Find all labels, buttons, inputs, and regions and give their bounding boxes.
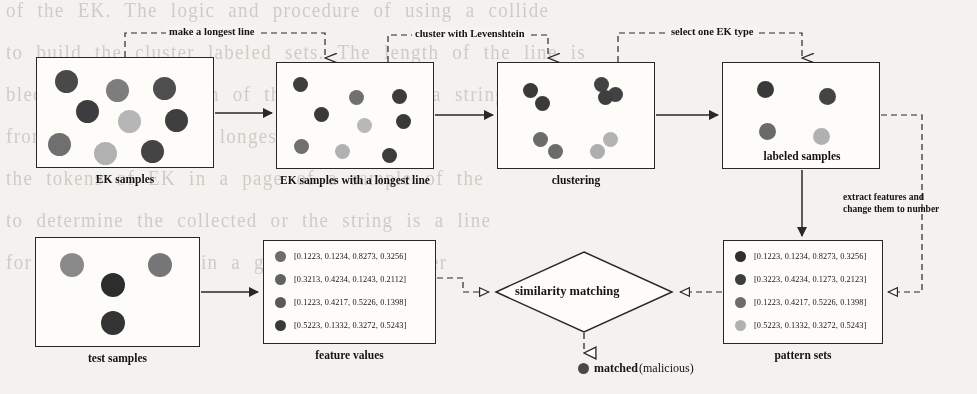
sample-dot	[357, 118, 372, 133]
feature-row-dot-icon	[275, 274, 286, 285]
feature-row-vector: [0.1223, 0.4217, 0.5226, 0.1398]	[754, 298, 866, 307]
matched-result-row: matched (malicious)	[578, 361, 694, 376]
dashed-cluster-levenshtein	[388, 35, 548, 62]
feature-row-vector: [0.1223, 0.1234, 0.8273, 0.3256]	[294, 252, 406, 261]
box-caption-clustering: clustering	[497, 174, 655, 186]
sample-dot	[813, 128, 830, 145]
sample-dot	[118, 110, 141, 133]
result-strong: matched	[594, 361, 638, 376]
sample-dot	[106, 79, 129, 102]
box-clustering	[497, 62, 655, 169]
sample-dot	[101, 273, 125, 297]
feature-row-vector: [0.3223, 0.4234, 0.1273, 0.2123]	[754, 275, 866, 284]
sample-dot	[819, 88, 836, 105]
feature-row-vector: [0.5223, 0.1332, 0.3272, 0.5243]	[754, 321, 866, 330]
box-caption-ek-samples-longest-line: EK samples with a longest line	[276, 174, 434, 186]
sample-dot	[94, 142, 117, 165]
sample-dot	[759, 123, 776, 140]
feature-row-dot-icon	[735, 274, 746, 285]
side-note-line-1: extract features and	[843, 191, 939, 203]
sample-dot	[590, 144, 605, 159]
result-normal: (malicious)	[639, 361, 694, 376]
side-note-extract-features: extract features and change them to numb…	[843, 191, 939, 215]
flow-label-select-ek-type: select one EK type	[668, 26, 757, 37]
feature-row: [0.1223, 0.1234, 0.8273, 0.3256]	[735, 251, 866, 262]
sample-dot	[60, 253, 84, 277]
sample-dot	[535, 96, 550, 111]
sample-dot	[76, 100, 99, 123]
feature-row: [0.5223, 0.1332, 0.3272, 0.5243]	[275, 320, 406, 331]
box-caption-pattern-sets: pattern sets	[723, 349, 883, 361]
feature-row-dot-icon	[275, 297, 286, 308]
feature-row-dot-icon	[735, 320, 746, 331]
feature-row-dot-icon	[735, 251, 746, 262]
sample-dot	[55, 70, 78, 93]
box-caption-feature-values: feature values	[263, 349, 436, 361]
feature-row-vector: [0.3213, 0.4234, 0.1243, 0.2112]	[294, 275, 406, 284]
box-caption-labeled-samples: labeled samples	[723, 150, 881, 162]
feature-row-dot-icon	[275, 320, 286, 331]
sample-dot	[165, 109, 188, 132]
flow-label-cluster-levenshtein: cluster with Levenshtein	[412, 28, 527, 39]
box-pattern-sets: [0.1223, 0.1234, 0.8273, 0.3256][0.3223,…	[723, 240, 883, 344]
feature-row: [0.1223, 0.4217, 0.5226, 0.1398]	[735, 297, 866, 308]
sample-dot	[153, 77, 176, 100]
sample-dot	[314, 107, 329, 122]
sample-dot	[101, 311, 125, 335]
sample-dot	[294, 139, 309, 154]
sample-dot	[548, 144, 563, 159]
feature-row: [0.1223, 0.4217, 0.5226, 0.1398]	[275, 297, 406, 308]
feature-row: [0.3213, 0.4234, 0.1243, 0.2112]	[275, 274, 406, 285]
sample-dot	[382, 148, 397, 163]
feature-row: [0.1223, 0.1234, 0.8273, 0.3256]	[275, 251, 406, 262]
sample-dot	[48, 133, 71, 156]
sample-dot	[141, 140, 164, 163]
sample-dot	[335, 144, 350, 159]
sample-dot	[533, 132, 548, 147]
sample-dot	[349, 90, 364, 105]
feature-row-vector: [0.1223, 0.4217, 0.5226, 0.1398]	[294, 298, 406, 307]
sample-dot	[148, 253, 172, 277]
side-note-line-2: change them to number	[843, 203, 939, 215]
feature-row-dot-icon	[735, 297, 746, 308]
box-labeled-samples: labeled samples	[722, 62, 880, 169]
box-caption-test-samples: test samples	[35, 352, 200, 364]
dashed-select-ek-type	[618, 33, 802, 62]
box-ek-samples-longest-line	[276, 62, 434, 169]
similarity-matching-label: similarity matching	[515, 284, 620, 299]
sample-dot	[757, 81, 774, 98]
feature-row-dot-icon	[275, 251, 286, 262]
result-dot-icon	[578, 363, 589, 374]
sample-dot	[603, 132, 618, 147]
feature-row-vector: [0.5223, 0.1332, 0.3272, 0.5243]	[294, 321, 406, 330]
feature-row: [0.3223, 0.4234, 0.1273, 0.2123]	[735, 274, 866, 285]
sample-dot	[523, 83, 538, 98]
sample-dot	[392, 89, 407, 104]
pipeline-diagram: EK samplesEK samples with a longest line…	[0, 0, 977, 394]
box-ek-samples	[36, 57, 214, 168]
dashed-features-to-matching	[437, 278, 489, 292]
box-caption-ek-samples: EK samples	[36, 173, 214, 185]
sample-dot	[293, 77, 308, 92]
sample-dot	[396, 114, 411, 129]
box-feature-values: [0.1223, 0.1234, 0.8273, 0.3256][0.3213,…	[263, 240, 436, 344]
box-test-samples	[35, 237, 200, 347]
feature-row: [0.5223, 0.1332, 0.3272, 0.5243]	[735, 320, 866, 331]
sample-dot	[598, 90, 613, 105]
feature-row-vector: [0.1223, 0.1234, 0.8273, 0.3256]	[754, 252, 866, 261]
flow-label-make-longest-line: make a longest line	[166, 26, 257, 37]
